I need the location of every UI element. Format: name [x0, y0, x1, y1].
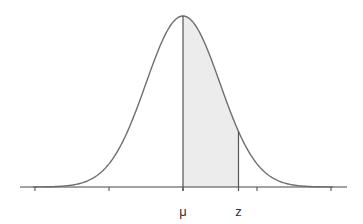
mu-label: μ [179, 204, 187, 219]
shaded-area-mu-to-z [183, 16, 239, 187]
z-label: z [235, 204, 242, 219]
normal-curve-diagram [0, 0, 363, 224]
